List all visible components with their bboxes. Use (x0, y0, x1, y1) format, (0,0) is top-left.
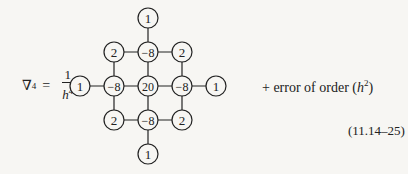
node-value: 2 (179, 45, 186, 60)
stencil-node: 1 (138, 8, 158, 28)
stencil-node: 20 (138, 76, 158, 96)
stencil-node: −8 (138, 110, 158, 130)
node-value: 1 (77, 79, 84, 94)
node-value: −8 (108, 80, 121, 94)
node-value: 1 (145, 11, 152, 26)
stencil-node: 1 (138, 144, 158, 164)
node-value: 1 (145, 147, 152, 162)
stencil-node: −8 (172, 76, 192, 96)
node-value: 20 (142, 80, 154, 94)
equation-number: (11.14–25) (348, 123, 405, 139)
stencil-node: 2 (104, 42, 124, 62)
stencil-node: 1 (206, 76, 226, 96)
stencil-node: 2 (104, 110, 124, 130)
stencil-node: −8 (104, 76, 124, 96)
stencil-node: 2 (172, 110, 192, 130)
error-term-var: h (357, 80, 364, 95)
stencil-node: −8 (138, 42, 158, 62)
node-value: −8 (176, 80, 189, 94)
node-value: −8 (142, 114, 155, 128)
node-value: 2 (179, 113, 186, 128)
stencil-node: 2 (172, 42, 192, 62)
node-value: 1 (213, 79, 220, 94)
error-term: + error of order (h2) (262, 78, 373, 96)
node-value: −8 (142, 46, 155, 60)
node-value: 2 (111, 113, 118, 128)
node-value: 2 (111, 45, 118, 60)
error-term-suffix: ) (368, 80, 373, 95)
error-term-prefix: + error of order ( (262, 80, 357, 95)
stencil-node: 1 (70, 76, 90, 96)
